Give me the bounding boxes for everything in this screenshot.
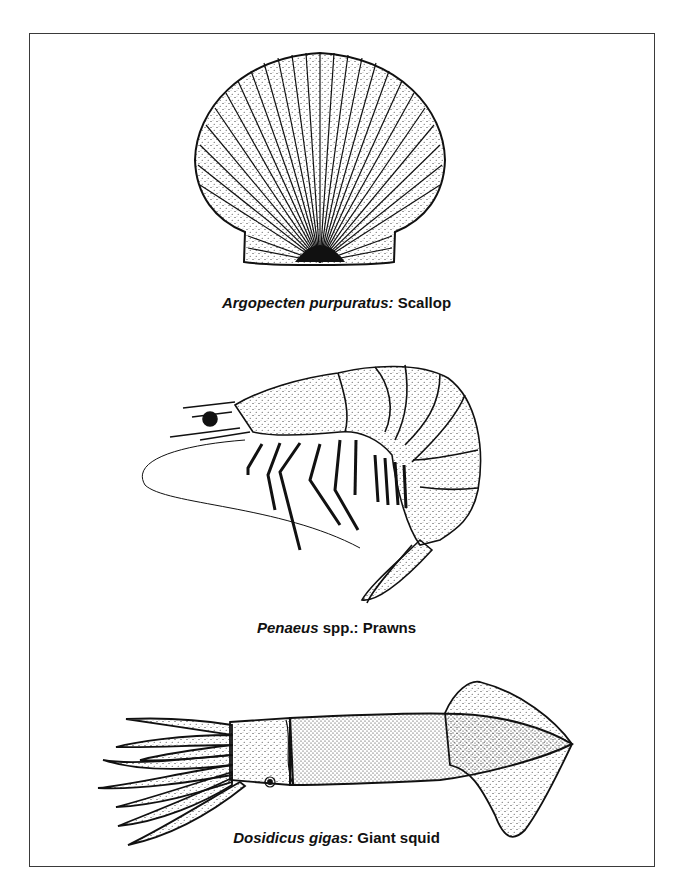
- prawn-illustration: [142, 365, 480, 603]
- common-name-squid: Giant squid: [357, 829, 440, 846]
- caption-scallop: Argopecten purpuratus: Scallop: [0, 294, 673, 311]
- scientific-name-scallop: Argopecten purpuratus:: [222, 294, 394, 311]
- scientific-name-squid: Dosidicus gigas:: [233, 829, 353, 846]
- scallop-shell-illustration: [195, 53, 445, 265]
- scientific-name-prawn: Penaeus: [257, 619, 319, 636]
- caption-prawn: Penaeus spp.: Prawns: [0, 619, 673, 636]
- illustrations: [0, 0, 673, 888]
- qualifier-prawn: spp.:: [323, 619, 359, 636]
- squid-illustration: [98, 682, 572, 845]
- common-name-scallop: Scallop: [398, 294, 451, 311]
- common-name-prawn: Prawns: [363, 619, 416, 636]
- caption-squid: Dosidicus gigas: Giant squid: [0, 829, 673, 846]
